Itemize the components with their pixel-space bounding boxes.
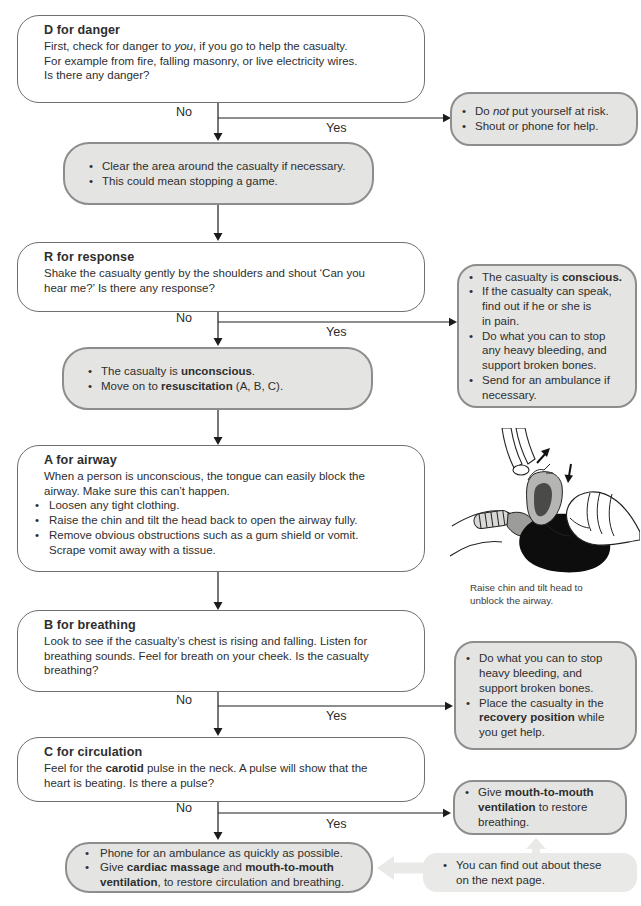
list-item: Place the casualty in therecovery positi… — [466, 696, 627, 740]
circulation-yes-label: Yes — [326, 817, 347, 831]
bullet-icon — [89, 174, 102, 189]
right-hand — [566, 492, 640, 545]
bullet-icon — [85, 860, 100, 874]
circulation-step-title: C for circulation — [44, 745, 412, 759]
list-item: Phone for an ambulance as quickly as pos… — [85, 846, 363, 860]
danger-yes-box: Do not put yourself at risk. Shout or ph… — [450, 92, 638, 146]
breathing-step-title: B for breathing — [44, 618, 412, 632]
response-yes-label: Yes — [326, 325, 347, 339]
breathing-yes-label: Yes — [326, 709, 347, 723]
bullet-icon — [88, 379, 101, 394]
list-item: Clear the area around the casualty if ne… — [89, 159, 364, 174]
airway-figure-caption: Raise chin and tilt head to unblock the … — [470, 582, 630, 607]
bullet-icon — [89, 159, 102, 174]
response-step-box: R for response Shake the casualty gently… — [17, 242, 425, 312]
bullet-icon — [35, 498, 49, 513]
bullet-icon — [443, 858, 456, 873]
list-item: Move on to resuscitation (A, B, C). — [88, 379, 363, 394]
breathing-no-label: No — [176, 693, 192, 707]
danger-step-box: D for danger First, check for danger to … — [17, 15, 425, 103]
bullet-icon — [85, 846, 100, 860]
circulation-no-box: Phone for an ambulance as quickly as pos… — [65, 842, 373, 893]
list-item: The casualty is conscious. — [469, 270, 627, 285]
list-item: You can find out about theseon the next … — [443, 858, 601, 887]
breathing-step-box: B for breathing Look to see if the casua… — [17, 610, 425, 692]
danger-step-title: D for danger — [44, 23, 412, 37]
bullet-icon — [35, 528, 49, 543]
list-item: Send for an ambulance ifnecessary. — [469, 373, 627, 402]
bullet-icon — [465, 785, 478, 800]
list-item: If the casualty can speak,find out if he… — [469, 284, 627, 328]
bullet-icon — [469, 373, 482, 388]
response-yes-box: The casualty is conscious. If the casual… — [457, 264, 637, 408]
list-item: This could mean stopping a game. — [89, 174, 364, 189]
airway-step-body: When a person is unconscious, the tongue… — [44, 469, 412, 498]
list-item: Loosen any tight clothing. — [35, 498, 412, 513]
circulation-no-label: No — [176, 801, 192, 815]
danger-yes-label: Yes — [326, 121, 347, 135]
list-item: Give mouth-to-mouthventilation to restor… — [465, 785, 617, 829]
bullet-icon — [469, 284, 482, 299]
list-item: Shout or phone for help. — [462, 119, 628, 134]
danger-step-body: First, check for danger to you, if you g… — [44, 39, 412, 83]
bullet-icon — [462, 104, 475, 119]
bullet-icon — [88, 364, 101, 379]
bullet-icon — [466, 651, 479, 666]
danger-no-box: Clear the area around the casualty if ne… — [63, 142, 374, 205]
list-item: Raise the chin and tilt the head back to… — [35, 513, 412, 528]
response-no-label: No — [176, 311, 192, 325]
response-step-body: Shake the casualty gently by the shoulde… — [44, 266, 412, 295]
list-item: Remove obvious obstructions such as a gu… — [35, 528, 412, 557]
first-aid-flowchart-page: D for danger First, check for danger to … — [0, 0, 641, 906]
list-item: The casualty is unconscious. — [88, 364, 363, 379]
response-no-box: The casualty is unconscious. Move on to … — [62, 347, 373, 410]
breathing-step-body: Look to see if the casualty’s chest is r… — [44, 634, 412, 678]
airway-illustration — [450, 428, 640, 580]
bullet-icon — [462, 119, 475, 134]
bullet-icon — [469, 329, 482, 344]
airway-step-title: A for airway — [44, 453, 412, 467]
airway-step-box: A for airway When a person is unconsciou… — [17, 445, 425, 572]
danger-no-label: No — [176, 105, 192, 119]
bullet-icon — [466, 696, 479, 711]
bullet-icon — [469, 270, 482, 285]
list-item: Do what you can to stopany heavy bleedin… — [469, 329, 627, 373]
bullet-icon — [35, 513, 49, 528]
list-item: Do not put yourself at risk. — [462, 104, 628, 119]
circulation-step-body: Feel for the carotid pulse in the neck. … — [44, 761, 412, 790]
response-step-title: R for response — [44, 250, 412, 264]
list-item: Give cardiac massage and mouth-to-mouthv… — [85, 860, 363, 889]
list-item: Do what you can to stopheavy bleeding, a… — [466, 651, 627, 695]
top-hand — [502, 428, 535, 475]
next-page-note-box: You can find out about theseon the next … — [423, 853, 637, 892]
breathing-yes-box: Do what you can to stopheavy bleeding, a… — [454, 641, 637, 750]
circulation-yes-box: Give mouth-to-mouthventilation to restor… — [453, 780, 627, 835]
circulation-step-box: C for circulation Feel for the carotid p… — [17, 737, 425, 802]
